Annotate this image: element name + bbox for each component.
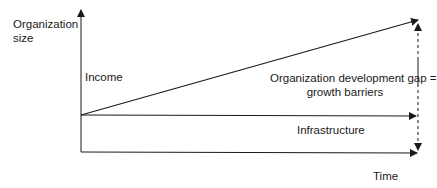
gap-label-line1: Organization development gap = <box>270 71 420 85</box>
income-label: Income <box>85 70 123 84</box>
y-axis-label: Organization size <box>13 17 83 45</box>
income-line <box>81 20 418 115</box>
y-axis-label-line2: size <box>13 31 83 45</box>
infrastructure-label: Infrastructure <box>297 123 365 137</box>
gap-label: Organization development gap = growth ba… <box>270 71 420 99</box>
infrastructure-line <box>81 115 416 116</box>
x-axis-label: Time <box>373 169 398 183</box>
gap-label-line2: growth barriers <box>270 85 420 99</box>
x-axis <box>81 152 417 153</box>
y-axis-label-line1: Organization <box>13 17 83 31</box>
